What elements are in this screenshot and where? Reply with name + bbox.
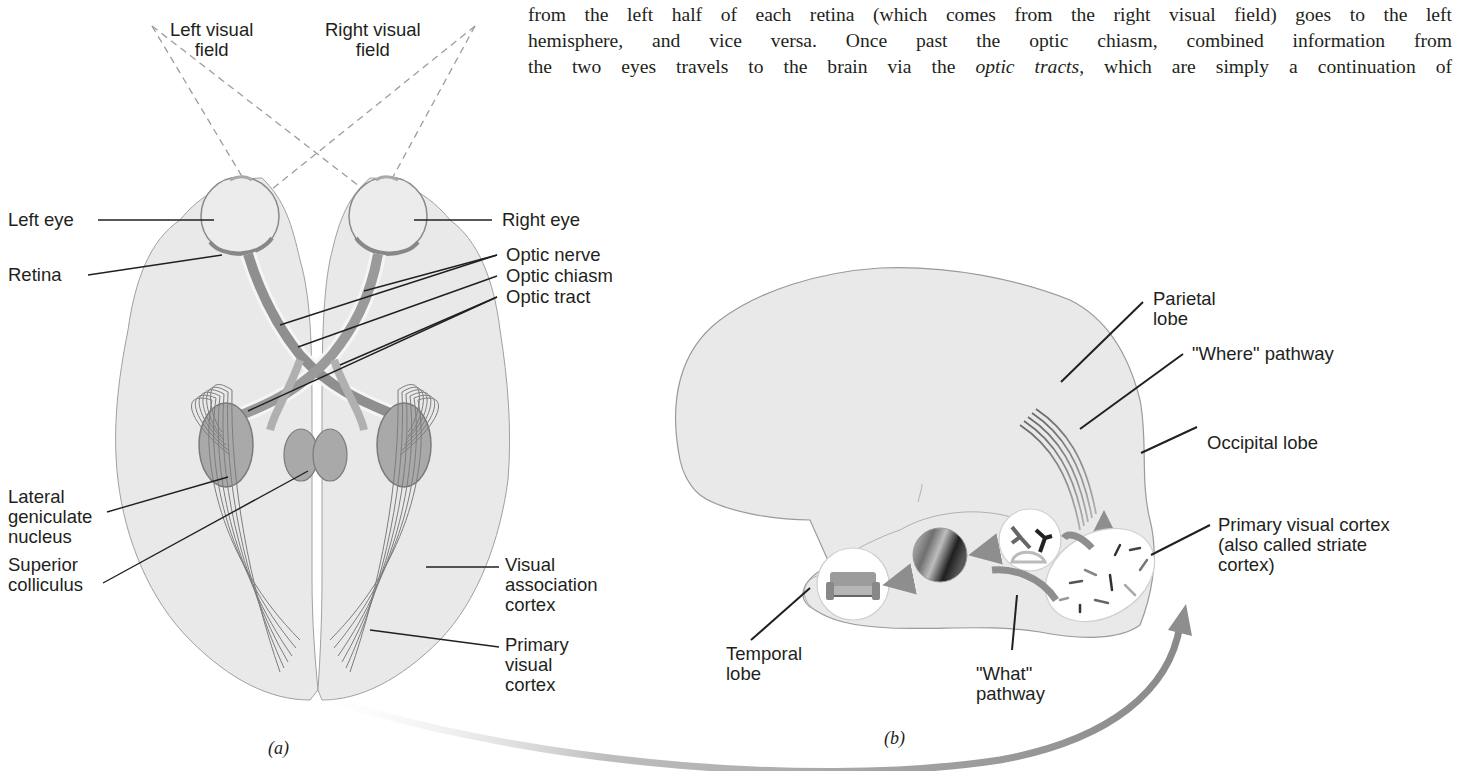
small-arrow-2 [898,580,908,582]
label-occipital-lobe: Occipital lobe [1207,433,1318,453]
label-parietal-lobe: Parietal lobe [1153,289,1216,329]
label-superior-colliculus: Superior colliculus [8,555,83,595]
feature-circle [999,509,1061,571]
small-arrow-1 [984,550,994,552]
label-left-eye: Left eye [8,210,74,230]
label-left-visual-field: Left visual field [170,20,253,60]
caption-a: (a) [268,738,289,759]
label-right-eye: Right eye [502,210,580,230]
label-visual-association-cortex: Visual association cortex [505,555,598,615]
label-primary-visual-cortex-a: Primary visual cortex [505,635,569,695]
label-right-visual-field: Right visual field [325,20,421,60]
caption-b: (b) [884,728,905,749]
connecting-arrowhead [1168,604,1192,636]
left-eye [201,177,279,255]
label-optic-tract: Optic tract [506,287,590,307]
object-circle-sofa [817,548,889,620]
label-where-pathway: "Where" pathway [1192,344,1334,364]
label-retina: Retina [8,265,61,285]
label-what-pathway: "What" pathway [976,664,1045,704]
label-optic-chiasm: Optic chiasm [506,266,613,286]
label-primary-visual-cortex-b: Primary visual cortex (also called stria… [1218,515,1390,575]
label-temporal-lobe: Temporal lobe [726,644,802,684]
label-optic-nerve: Optic nerve [506,245,601,265]
right-eye [349,177,427,255]
label-lateral-geniculate-nucleus: Lateral geniculate nucleus [8,487,92,547]
texture-ball [913,528,967,582]
superior-colliculi [284,429,347,481]
